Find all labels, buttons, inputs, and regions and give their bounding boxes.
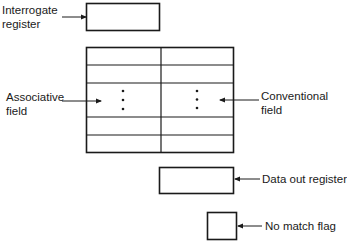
interrogate-register-box bbox=[87, 4, 160, 31]
conventional-ellipsis bbox=[196, 90, 199, 110]
label-line: register bbox=[2, 17, 58, 31]
associative-field-label: Associative field bbox=[6, 90, 64, 118]
interrogate-register-label: Interrogate register bbox=[2, 3, 58, 31]
memory-array bbox=[87, 48, 234, 153]
associative-ellipsis bbox=[122, 90, 125, 111]
label-line: field bbox=[6, 104, 64, 118]
no-match-flag-label: No match flag bbox=[265, 219, 336, 233]
label-line: Interrogate bbox=[2, 3, 58, 17]
data-out-register-label: Data out register bbox=[262, 172, 347, 186]
label-line: Associative bbox=[6, 90, 64, 104]
conventional-field-label: Conventional field bbox=[261, 89, 328, 117]
label-line: field bbox=[261, 103, 328, 117]
no-match-flag-box bbox=[208, 213, 237, 240]
data-out-register-box bbox=[160, 168, 234, 194]
label-line: Conventional bbox=[261, 89, 328, 103]
